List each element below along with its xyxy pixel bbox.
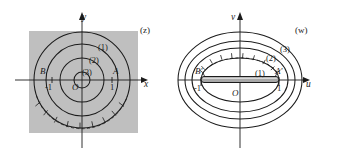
curve-label-3-w: (3) [280,45,290,54]
tick-label-A: 1 [110,83,114,92]
y-axis-label: y [82,13,86,23]
x-axis-label: x [144,80,148,90]
curve-label-1-z: (1) [98,43,108,52]
w-plane-graphic [170,0,340,162]
curve-label-1-w: (1) [255,69,265,78]
v-axis-label: v [231,13,235,23]
tick-label-A-prime: 1 [277,84,281,93]
origin-label-z: O [72,83,79,92]
point-label-A-prime: A' [275,67,282,76]
tick-label-B: -1 [45,83,52,92]
u-axis-label: u [306,80,311,90]
z-plane-panel: y x (z) (1) (2) (3) A 1 B -1 O [0,0,170,162]
conformal-mapping-figure: y x (z) (1) (2) (3) A 1 B -1 O [0,0,340,162]
point-label-A: A [113,67,119,76]
z-plane-label: (z) [140,26,150,35]
point-label-B-prime: B' [195,67,202,76]
w-plane-label: (w) [295,26,308,35]
point-label-B: B [40,67,46,76]
w-plane-panel: v u (w) (1) (2) (3) A' 1 B' -1 O [170,0,340,162]
curve-label-2-z: (2) [89,56,99,65]
curve-label-3-z: (3) [82,68,92,77]
origin-label-w: O [232,89,239,98]
tick-label-B-prime: -1 [194,84,201,93]
slit-segment [201,77,279,83]
curve-label-2-w: (2) [266,54,276,63]
